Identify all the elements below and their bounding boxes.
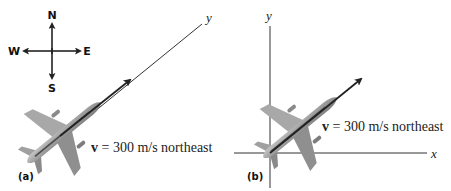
panel-b-label: (b) (247, 171, 263, 182)
panel-b-y-label: y (264, 8, 272, 23)
compass-east-label: E (83, 45, 91, 58)
panel-b-velocity-text: v = 300 m/s northeast (322, 119, 444, 134)
velocity-vector-a (60, 80, 130, 136)
velocity-symbol: v (322, 119, 329, 134)
compass-north-label: N (47, 9, 56, 22)
panel-a: y v = 300 m/s northeast (a) (2, 10, 213, 191)
diagram-canvas: N S E W y v = 300 m/s northeast (a) y x … (0, 0, 451, 191)
compass-south-label: S (48, 82, 56, 95)
panel-b: y x v = 300 m/s northeast (b) (234, 8, 444, 189)
velocity-symbol: v (91, 140, 98, 155)
velocity-value: = 300 m/s northeast (329, 119, 444, 134)
velocity-value: = 300 m/s northeast (98, 140, 213, 155)
panel-a-y-label: y (204, 10, 212, 25)
panel-a-label: (a) (18, 171, 34, 182)
compass-west-label: W (8, 45, 20, 58)
compass-rose: N S E W (8, 9, 91, 95)
panel-b-x-label: x (430, 146, 437, 161)
panel-a-velocity-text: v = 300 m/s northeast (91, 140, 213, 155)
